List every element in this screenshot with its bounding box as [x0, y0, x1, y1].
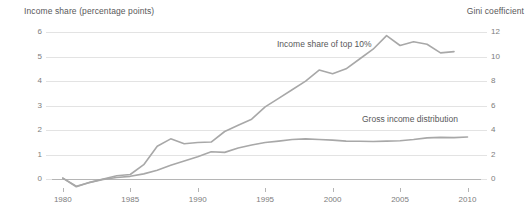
series-lines — [63, 36, 468, 187]
chart-container: Income share (percentage points) Gini co… — [0, 0, 530, 224]
x-axis-tick-label: 2010 — [448, 195, 488, 204]
x-axis-tick-label: 1990 — [178, 195, 218, 204]
y2-axis-tick-label: 6 — [491, 101, 507, 110]
series-annotation-0: Income share of top 10% — [277, 39, 372, 49]
y-axis-tick-label: 6 — [24, 27, 42, 36]
x-axis-tick-label: 1995 — [245, 195, 285, 204]
y-axis-tick-label: 1 — [24, 150, 42, 159]
x-axis-tick-marks — [64, 188, 469, 192]
series-line-0 — [63, 36, 454, 187]
y-axis-tick-label: 0 — [24, 174, 42, 183]
y2-axis-tick-label: 8 — [491, 76, 507, 85]
y2-axis-tick-label: 0 — [491, 174, 507, 183]
y-axis-tick-label: 2 — [24, 125, 42, 134]
x-axis-tick-label: 1985 — [110, 195, 150, 204]
plot-area — [0, 0, 530, 224]
series-line-1 — [63, 137, 468, 186]
y-axis-tick-label: 4 — [24, 76, 42, 85]
x-axis-tick-label: 2005 — [380, 195, 420, 204]
y2-axis-tick-label: 2 — [491, 150, 507, 159]
x-axis-tick-label: 1980 — [43, 195, 83, 204]
x-axis-tick-label: 2000 — [313, 195, 353, 204]
y2-axis-tick-label: 10 — [491, 52, 507, 61]
y-axis-tick-label: 3 — [24, 101, 42, 110]
y2-axis-tick-label: 12 — [491, 27, 507, 36]
series-annotation-1: Gross income distribution — [362, 114, 458, 124]
y2-axis-tick-label: 4 — [491, 125, 507, 134]
y-axis-tick-label: 5 — [24, 52, 42, 61]
